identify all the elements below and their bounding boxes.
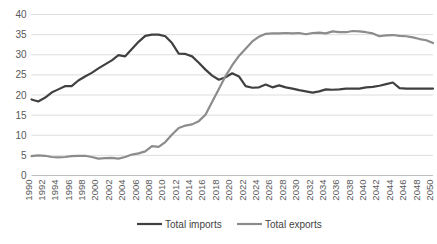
x-tick-label: 2048 — [411, 180, 422, 201]
x-tick-label: 2008 — [143, 180, 154, 201]
y-tick-label: 15 — [15, 110, 27, 121]
x-tick-label: 1998 — [76, 180, 87, 201]
x-tick-label: 1994 — [49, 180, 60, 201]
line-chart: 0510152025303540 19901992199419961998200… — [0, 0, 437, 244]
x-tick-label: 2002 — [103, 180, 114, 201]
x-tick-label: 2026 — [263, 180, 274, 201]
y-tick-label: 0 — [21, 170, 27, 181]
chart-canvas: 0510152025303540 19901992199419961998200… — [0, 0, 437, 244]
y-tick-label: 20 — [15, 90, 27, 101]
y-axis-tick-labels: 0510152025303540 — [15, 9, 27, 181]
x-axis-tick-labels: 1990199219941996199820002002200420062008… — [23, 180, 436, 201]
x-tick-label: 2018 — [210, 180, 221, 201]
x-tick-label: 2000 — [89, 180, 100, 201]
x-tick-label: 2010 — [156, 180, 167, 201]
legend-label-total-exports: Total exports — [265, 219, 322, 230]
x-tick-label: 2030 — [290, 180, 301, 201]
figure-caption — [150, 234, 320, 244]
x-tick-label: 2022 — [237, 180, 248, 201]
legend: Total importsTotal exports — [137, 219, 322, 230]
x-tick-label: 2024 — [250, 180, 261, 201]
y-tick-label: 10 — [15, 130, 27, 141]
y-tick-label: 40 — [15, 9, 27, 20]
x-tick-label: 2014 — [183, 180, 194, 201]
x-tick-label: 2040 — [357, 180, 368, 201]
x-tick-label: 2004 — [116, 180, 127, 201]
x-tick-label: 2044 — [384, 180, 395, 201]
x-tick-label: 2020 — [223, 180, 234, 201]
x-tick-label: 2050 — [424, 180, 435, 201]
y-tick-label: 25 — [15, 69, 27, 80]
x-tick-label: 2032 — [304, 180, 315, 201]
x-tick-label: 2046 — [397, 180, 408, 201]
x-tick-label: 2016 — [196, 180, 207, 201]
x-tick-label: 2034 — [317, 180, 328, 201]
x-tick-label: 1992 — [36, 180, 47, 201]
x-tick-label: 2012 — [170, 180, 181, 201]
series-line-total-imports — [32, 35, 434, 102]
x-tick-label: 2042 — [370, 180, 381, 201]
gridlines — [32, 15, 434, 176]
x-tick-label: 1996 — [63, 180, 74, 201]
x-tick-label: 2028 — [277, 180, 288, 201]
y-tick-label: 35 — [15, 29, 27, 40]
legend-label-total-imports: Total imports — [165, 219, 222, 230]
x-tick-label: 2038 — [344, 180, 355, 201]
plot-area: 0510152025303540 19901992199419961998200… — [0, 0, 437, 244]
y-tick-label: 30 — [15, 49, 27, 60]
x-tick-label: 2036 — [330, 180, 341, 201]
x-tick-label: 2006 — [130, 180, 141, 201]
x-tick-label: 1990 — [23, 180, 34, 201]
y-tick-label: 5 — [21, 150, 27, 161]
